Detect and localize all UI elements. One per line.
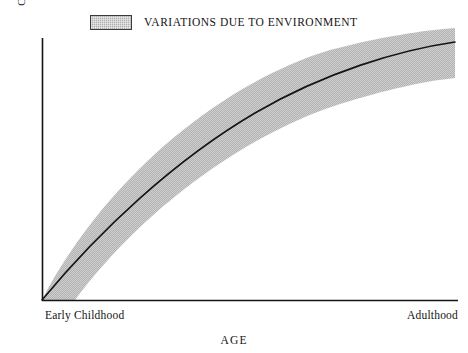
x-axis-title: AGE [0,334,468,346]
y-axis-title: CORRELATION WITH TERMINAL LEVEL OF DEVEL… [16,56,36,326]
y-axis-title-line-1: CORRELATION WITH TERMINAL [16,0,29,56]
x-tick-label-early-childhood: Early Childhood [45,309,124,321]
x-tick-label-adulthood: Adulthood [330,309,458,321]
plot-area [0,0,468,353]
y-axis-title-line-2: LEVEL OF DEVELOPMENT [29,0,42,56]
chart-figure: VARIATIONS DUE TO ENVIRONMENT CORRELATIO… [0,0,468,353]
environmental-variation-band [42,28,455,300]
